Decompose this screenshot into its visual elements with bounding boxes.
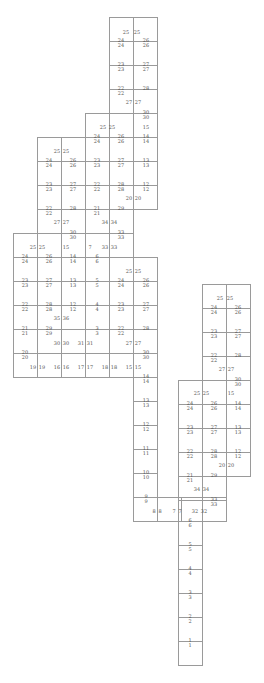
cell-number-label: 30 <box>70 235 76 240</box>
cell-number-label: 25 <box>54 149 60 154</box>
cell-number-label: 33 <box>211 502 217 507</box>
cell-number-label: 20 <box>126 196 132 201</box>
cell-number-label: 15 <box>143 125 149 130</box>
cell-number-label: 23 <box>22 283 28 288</box>
cell-number-label: 32 <box>192 509 198 514</box>
cell-number-label: 1 <box>188 643 191 648</box>
cell-number-label: 14 <box>143 139 149 144</box>
cell-number-label: 25 <box>134 30 140 35</box>
cell-number-label: 7 <box>172 509 175 514</box>
cell-number-label: 23 <box>94 163 100 168</box>
cell-number-label: 13 <box>143 163 149 168</box>
cell-number-label: 12 <box>143 427 149 432</box>
cell-number-label: 5 <box>188 547 191 552</box>
cell-number-label: 17 <box>87 365 93 370</box>
cell-number-label: 33 <box>111 245 117 250</box>
cell-number-label: 27 <box>63 220 69 225</box>
cell-number-label: 24 <box>118 283 124 288</box>
cell-number-label: 30 <box>143 115 149 120</box>
cell-number-label: 24 <box>187 406 193 411</box>
cell-number-label: 26 <box>143 283 149 288</box>
cell-number-label: 13 <box>70 283 76 288</box>
cell-number-label: 31 <box>87 341 93 346</box>
cell-number-label: 8 <box>152 509 155 514</box>
cell-number-label: 20 <box>219 463 225 468</box>
cell-number-label: 12 <box>143 187 149 192</box>
cell-number-label: 24 <box>94 139 100 144</box>
cell-number-label: 9 <box>144 499 147 504</box>
cell-number-label: 28 <box>70 206 76 211</box>
cell-number-label: 22 <box>118 91 124 96</box>
cell-number-label: 19 <box>30 365 36 370</box>
cell-number-label: 4 <box>95 307 98 312</box>
cell-number-label: 15 <box>135 365 141 370</box>
cell-number-label: 25 <box>109 125 115 130</box>
cell-number-label: 30 <box>235 382 241 387</box>
cell-number-label: 25 <box>227 296 233 301</box>
cell-number-label: 31 <box>78 341 84 346</box>
cell-number-label: 29 <box>46 331 52 336</box>
cell-number-label: 33 <box>102 245 108 250</box>
cell-number-label: 8 <box>158 509 161 514</box>
cell-number-label: 7 <box>88 245 91 250</box>
cell-number-label: 25 <box>203 391 209 396</box>
cell-number-label: 27 <box>143 307 149 312</box>
cell-number-label: 30 <box>54 341 60 346</box>
cell-number-label: 22 <box>46 211 52 216</box>
cell-number-label: 26 <box>46 259 52 264</box>
cell-number-label: 29 <box>118 206 124 211</box>
cell-number-label: 5 <box>95 283 98 288</box>
cell-number-label: 12 <box>235 454 241 459</box>
cell-number-label: 21 <box>187 478 193 483</box>
cell-number-label: 7 <box>178 509 181 514</box>
cell-number-label: 27 <box>211 430 217 435</box>
cell-number-label: 25 <box>123 30 129 35</box>
cell-number-label: 25 <box>39 245 45 250</box>
cell-number-label: 22 <box>211 358 217 363</box>
cell-number-label: 2 <box>188 619 191 624</box>
cell-number-label: 30 <box>143 355 149 360</box>
cell-number-label: 4 <box>188 571 191 576</box>
cell-number-label: 22 <box>187 454 193 459</box>
cell-number-label: 19 <box>39 365 45 370</box>
cell-number-label: 16 <box>63 365 69 370</box>
cell-number-label: 29 <box>211 473 217 478</box>
cell-number-label: 30 <box>63 341 69 346</box>
cell-number-label: 21 <box>94 211 100 216</box>
cell-number-label: 25 <box>217 296 223 301</box>
cell-number-label: 27 <box>126 100 132 105</box>
cell-number-label: 25 <box>135 269 141 274</box>
cell-number-label: 21 <box>22 331 28 336</box>
cell-number-label: 27 <box>143 67 149 72</box>
cell-number-label: 28 <box>118 187 124 192</box>
cell-number-label: 15 <box>63 245 69 250</box>
cell-number-label: 25 <box>30 245 36 250</box>
cell-number-label: 25 <box>63 149 69 154</box>
cell-number-label: 25 <box>194 391 200 396</box>
cell-number-label: 23 <box>118 67 124 72</box>
cell-number-label: 26 <box>235 310 241 315</box>
cell-number-label: 28 <box>235 353 241 358</box>
cell-number-label: 14 <box>235 406 241 411</box>
cell-number-label: 3 <box>188 595 191 600</box>
cell-number-label: 24 <box>22 259 28 264</box>
cell-number-label: 26 <box>118 139 124 144</box>
cell-number-label: 27 <box>46 283 52 288</box>
cell-number-label: 25 <box>100 125 106 130</box>
cell-number-label: 3 <box>95 331 98 336</box>
cell-number-label: 28 <box>143 326 149 331</box>
cell-number-label: 10 <box>143 475 149 480</box>
cell-number-label: 12 <box>70 307 76 312</box>
cell-number-label: 23 <box>187 430 193 435</box>
cell-number-label: 34 <box>111 220 117 225</box>
cell-number-label: 18 <box>111 365 117 370</box>
cell-number-label: 28 <box>46 307 52 312</box>
cell-number-label: 27 <box>135 100 141 105</box>
cell-number-label: 18 <box>102 365 108 370</box>
cell-number-label: 23 <box>46 187 52 192</box>
cell-number-label: 24 <box>211 310 217 315</box>
cell-number-label: 27 <box>228 367 234 372</box>
cell-number-label: 34 <box>102 220 108 225</box>
cell-number-label: 22 <box>94 187 100 192</box>
cell-number-label: 33 <box>118 235 124 240</box>
